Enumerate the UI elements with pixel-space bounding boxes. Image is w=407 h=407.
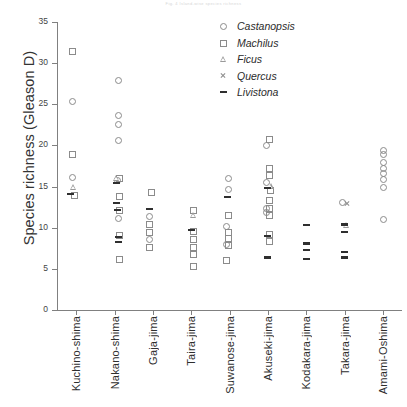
data-point-livistona [341,231,348,233]
open-triangle-icon [215,52,233,66]
x-tick-mark [383,310,384,315]
legend-label: Machilus [237,37,278,49]
data-point-livistona [113,182,120,184]
data-point-livistona [67,193,74,195]
y-tick-label: 15 [18,182,48,190]
y-tick-label: 5 [18,264,48,272]
data-point-machilus [266,165,273,172]
x-axis-category-label: Amami-Oshima [377,316,389,394]
data-point-livistona [264,256,271,258]
data-point-livistona [303,242,310,244]
data-point-livistona [303,224,310,226]
data-point-castanopsis [115,215,122,222]
legend-entry[interactable]: Machilus [215,35,295,52]
data-point-livistona [115,241,122,243]
data-point-machilus [266,205,273,212]
data-point-machilus [148,189,155,196]
x-axis-category-label: Kuchino-shima [70,316,82,391]
data-point-machilus [266,136,273,143]
data-point-livistona [264,235,271,237]
data-point-machilus [225,242,232,249]
data-point-ficus [113,175,119,181]
chart-legend: CastanopsisMachilusFicusQuercusLivistona [215,18,295,101]
figure-header-text: Fig. 4 Island-wise species richness [0,1,407,6]
legend-entry[interactable]: Castanopsis [215,18,295,35]
data-point-livistona [341,256,348,258]
chart-figure: Fig. 4 Island-wise species richness Spec… [0,0,407,407]
data-point-machilus [69,48,76,55]
open-square-icon [215,36,233,50]
data-point-machilus [266,212,273,219]
x-tick-mark [76,310,77,315]
y-tick-label: 25 [18,99,48,107]
legend-marker-glyph [220,56,226,62]
data-point-ficus [70,184,76,190]
x-tick-mark [306,310,307,315]
data-point-livistona [114,209,121,211]
data-point-livistona [264,187,271,189]
data-point-livistona [113,202,120,204]
data-point-livistona [146,208,153,210]
x-axis-category-label: Kodakara-jima [300,316,312,390]
data-point-castanopsis [146,213,153,220]
x-cross-icon [215,69,233,83]
x-axis-category-label: Gaja-jima [147,316,159,365]
x-tick-mark [268,310,269,315]
legend-marker-glyph [220,91,227,93]
data-point-castanopsis [115,112,122,119]
data-point-castanopsis [115,137,122,144]
y-tick-label: 30 [18,58,48,66]
data-point-livistona [341,251,348,253]
x-axis-category-label: Takara-jima [339,316,351,375]
data-point-livistona [188,229,195,231]
data-point-castanopsis [225,175,232,182]
data-point-castanopsis [225,186,232,193]
x-tick-mark [153,310,154,315]
data-point-castanopsis [69,98,76,105]
legend-label: Quercus [237,70,277,82]
data-point-machilus [225,212,232,219]
x-tick-mark [191,310,192,315]
x-tick-mark [230,310,231,315]
y-tick-label: 0 [18,305,48,313]
y-tick-mark [52,310,57,311]
legend-marker-glyph [220,23,227,30]
data-point-machilus [146,229,153,236]
data-point-livistona [341,223,348,225]
data-point-machilus [146,221,153,228]
data-point-machilus [190,236,197,243]
data-point-machilus [223,257,230,264]
legend-entry[interactable]: Quercus [215,68,295,85]
legend-label: Castanopsis [237,20,295,32]
y-axis-title: Species richness (Gleason D) [21,0,37,298]
data-point-livistona [303,258,310,260]
data-point-castanopsis [115,77,122,84]
x-tick-mark [115,310,116,315]
data-point-livistona [115,236,122,238]
y-tick-label: 35 [18,17,48,25]
data-point-castanopsis [380,151,387,158]
data-point-machilus [266,172,273,179]
open-circle-icon [215,19,233,33]
legend-entry[interactable]: Livistona [215,84,295,101]
legend-label: Livistona [237,86,278,98]
data-point-ficus [190,212,196,218]
data-point-castanopsis [380,216,387,223]
legend-entry[interactable]: Ficus [215,51,295,68]
legend-label: Ficus [237,53,262,65]
data-point-machilus [116,256,123,263]
x-tick-mark [345,310,346,315]
legend-marker-glyph [220,73,226,79]
data-point-machilus [190,244,197,251]
data-point-castanopsis [380,176,387,183]
data-point-quercus [344,200,350,206]
data-point-castanopsis [115,121,122,128]
data-point-livistona [303,249,310,251]
x-axis-category-label: Suwanose-jima [224,316,236,394]
data-point-livistona [224,196,231,198]
x-axis-category-label: Nakano-shima [109,316,121,389]
data-point-machilus [146,244,153,251]
legend-marker-glyph [220,40,227,47]
data-point-machilus [266,238,273,245]
data-point-castanopsis [146,236,153,243]
